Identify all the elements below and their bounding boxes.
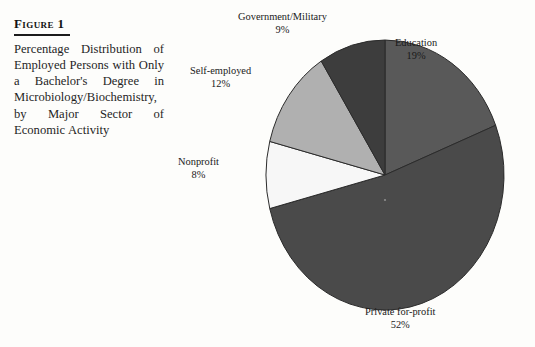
- pie-label-private-for-profit-name: Private for-profit: [365, 305, 435, 318]
- pie-label-government-military: Government/Military 9%: [238, 10, 327, 36]
- pie-label-education: Education 19%: [395, 36, 437, 62]
- pie-label-private-for-profit-percent: 52%: [365, 318, 435, 331]
- pie-center-tick: [384, 199, 386, 201]
- figure-caption-text: Percentage Distribution of Employed Pers…: [14, 41, 164, 138]
- pie-label-self-employed-name: Self-employed: [190, 64, 251, 77]
- figure-page: Figure 1 Percentage Distribution of Empl…: [0, 0, 535, 347]
- pie-label-self-employed: Self-employed 12%: [190, 64, 251, 90]
- pie-slice-group: [266, 40, 504, 310]
- pie-label-nonprofit-percent: 8%: [178, 168, 219, 181]
- pie-label-education-name: Education: [395, 36, 437, 49]
- pie-chart-area: Government/Military 9% Education 19% Sel…: [170, 0, 535, 347]
- pie-label-self-employed-percent: 12%: [190, 77, 251, 90]
- title-underline-rule: [14, 34, 70, 36]
- pie-chart-svg: [170, 0, 535, 347]
- pie-label-government-military-name: Government/Military: [238, 10, 327, 23]
- pie-label-nonprofit-name: Nonprofit: [178, 155, 219, 168]
- figure-title: Figure 1: [14, 17, 164, 33]
- pie-label-nonprofit: Nonprofit 8%: [178, 155, 219, 181]
- pie-label-government-military-percent: 9%: [238, 23, 327, 36]
- pie-label-private-for-profit: Private for-profit 52%: [365, 305, 435, 331]
- figure-caption-block: Figure 1 Percentage Distribution of Empl…: [14, 17, 164, 138]
- pie-label-education-percent: 19%: [395, 49, 437, 62]
